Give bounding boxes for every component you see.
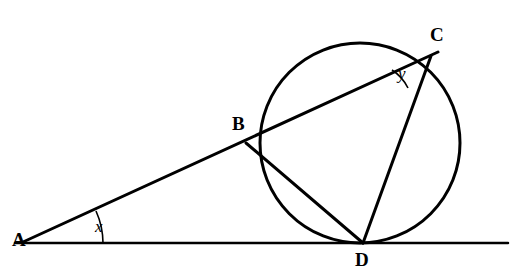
circle-shape — [260, 43, 460, 243]
vertex-label-d: D — [355, 250, 369, 269]
angle-label-y: y — [398, 65, 406, 82]
geometry-figure: A B C D x y — [0, 0, 524, 276]
vertex-label-c: C — [430, 25, 444, 44]
segment-ac — [23, 52, 438, 242]
segment-cd — [363, 56, 431, 243]
vertex-label-b: B — [232, 114, 245, 133]
vertex-label-a: A — [12, 230, 26, 249]
segment-bd — [246, 143, 363, 243]
angle-label-x: x — [95, 218, 103, 235]
geometry-canvas — [0, 0, 524, 276]
